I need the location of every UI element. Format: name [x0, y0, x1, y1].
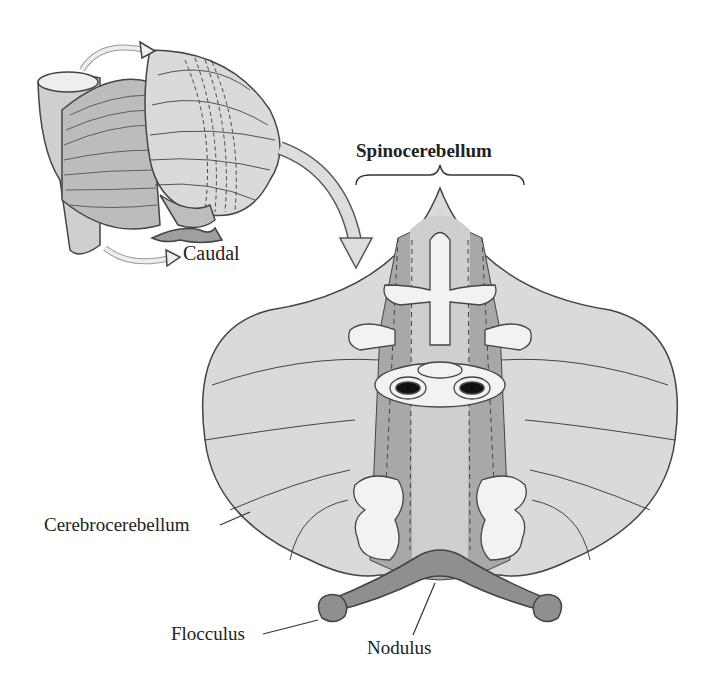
label-spinocerebellum: Spinocerebellum: [356, 140, 492, 162]
eye-left: [396, 382, 420, 394]
label-caudal: Caudal: [183, 242, 240, 265]
label-flocculus: Flocculus: [171, 623, 245, 645]
unfold-arrow: [280, 148, 372, 268]
inset-cerebellum: [38, 42, 280, 266]
cerebellum-figure: Caudal Spinocerebellum Cerebrocerebellum…: [0, 0, 719, 681]
spino-brace: [356, 165, 524, 185]
label-cerebrocerebellum: Cerebrocerebellum: [44, 514, 190, 536]
flattened-cerebellum: [203, 188, 678, 622]
label-nodulus: Nodulus: [367, 637, 431, 659]
cerebellum-diagram: [0, 0, 719, 681]
eye-right: [460, 382, 484, 394]
